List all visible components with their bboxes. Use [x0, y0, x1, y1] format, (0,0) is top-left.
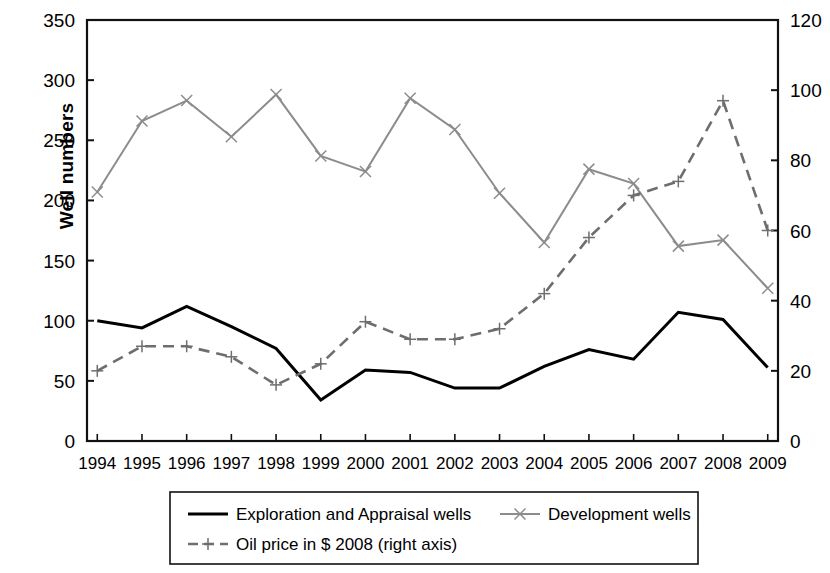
y-axis-left-tick-label: 100: [43, 311, 75, 332]
chart-legend: Exploration and Appraisal wellsDevelopme…: [170, 492, 698, 564]
series-1: [97, 306, 767, 400]
y-axis-left-tick-label: 350: [43, 10, 75, 31]
legend-label: Development wells: [548, 505, 691, 524]
x-axis-tick-label: 1998: [257, 454, 295, 473]
series-2: [92, 89, 773, 294]
y-axis-left-tick-label: 300: [43, 70, 75, 91]
x-axis-tick-label: 2005: [570, 454, 608, 473]
x-axis-tick-label: 2006: [615, 454, 653, 473]
chart-container: Well numbers 050100150200250300350020406…: [0, 0, 830, 573]
x-axis-tick-label: 2002: [436, 454, 474, 473]
y-axis-right-tick-label: 40: [790, 291, 811, 312]
series-line: [97, 101, 767, 385]
y-axis-left-tick-label: 0: [64, 431, 75, 452]
x-axis-tick-label: 2003: [481, 454, 519, 473]
series-layer: [91, 89, 773, 400]
series-3: [91, 95, 773, 391]
x-axis-tick-label: 2008: [704, 454, 742, 473]
legend-label: Oil price in $ 2008 (right axis): [236, 535, 457, 554]
chart-plot-area: 050100150200250300350020406080100120 199…: [0, 0, 830, 573]
y-axis-right-tick-label: 100: [790, 80, 822, 101]
plot-frame: [87, 20, 778, 441]
x-axis-tick-labels: 1994199519961997199819992000200120022003…: [78, 454, 786, 473]
y-axis-left-tick-label: 150: [43, 251, 75, 272]
axes-layer: 050100150200250300350020406080100120: [43, 10, 821, 452]
y-axis-left-tick-label: 50: [54, 371, 75, 392]
y-axis-right-tick-label: 20: [790, 361, 811, 382]
y-axis-right-tick-label: 0: [790, 431, 801, 452]
x-axis-tick-label: 2001: [391, 454, 429, 473]
y-axis-left-tick-label: 200: [43, 190, 75, 211]
x-axis-tick-label: 2009: [749, 454, 787, 473]
x-axis-tick-label: 2004: [525, 454, 563, 473]
y-axis-right-tick-label: 60: [790, 221, 811, 242]
series-line: [97, 306, 767, 400]
y-axis-right-tick-label: 80: [790, 150, 811, 171]
x-axis-tick-label: 1995: [123, 454, 161, 473]
x-axis-tick-label: 1996: [168, 454, 206, 473]
series-line: [97, 95, 767, 289]
y-axis-left-tick-label: 250: [43, 130, 75, 151]
x-axis-tick-label: 1994: [78, 454, 116, 473]
x-axis-tick-label: 1997: [212, 454, 250, 473]
x-axis-tick-label: 2007: [659, 454, 697, 473]
legend-label: Exploration and Appraisal wells: [236, 505, 471, 524]
y-axis-right-tick-label: 120: [790, 10, 822, 31]
x-axis-tick-label: 2000: [347, 454, 385, 473]
x-axis-tick-label: 1999: [302, 454, 340, 473]
